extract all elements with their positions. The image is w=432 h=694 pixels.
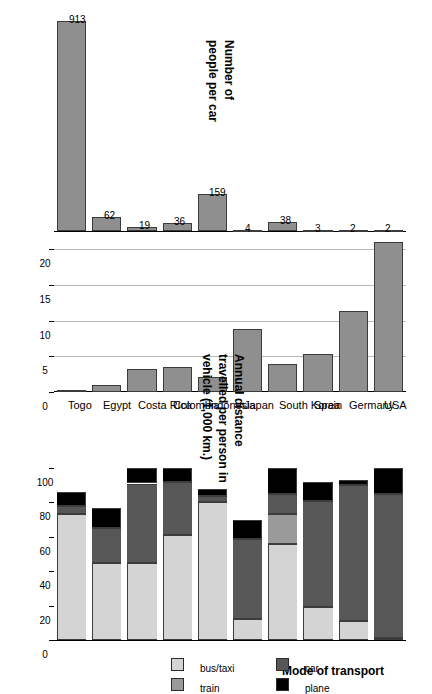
transport-tick-label: 80: [39, 512, 50, 522]
transport-stacked-bar: [303, 468, 332, 640]
transport-segment-plane: [92, 508, 121, 529]
transport-segment-bus-taxi: [233, 619, 262, 640]
distance-tick-label: 15: [39, 295, 50, 305]
country-label: South Korea: [279, 400, 340, 411]
distance-gridline: [54, 285, 406, 286]
transport-segment-train: [268, 514, 297, 543]
transport-stacked-bar: [198, 468, 227, 640]
distance-tick: [49, 392, 54, 393]
transport-segment-car: [303, 501, 332, 608]
transport-segment-plane: [339, 480, 368, 485]
transport-segment-car: [127, 484, 156, 563]
people-value-label: 38: [280, 216, 291, 226]
transport-tick: [49, 468, 54, 469]
distance-gridline: [54, 249, 406, 250]
transport-segment-car: [233, 539, 262, 620]
transport-segment-car: [339, 485, 368, 621]
transport-tick: [49, 571, 54, 572]
transport-stacked-bar: [163, 468, 192, 640]
legend-swatch-car: [276, 658, 289, 671]
people-value-label: 159: [209, 188, 226, 198]
distance-axis-title-line3: vehicle (1,000 km.): [200, 354, 214, 460]
transport-stacked-bar: [57, 468, 86, 640]
distance-tick: [49, 249, 54, 250]
transport-segment-car: [268, 494, 297, 515]
transport-segment-car: [198, 496, 227, 503]
legend-title: Mode of transport: [282, 664, 384, 678]
distance-bar: [57, 390, 86, 392]
legend-swatch-plane: [276, 678, 289, 691]
transport-segment-bus-taxi: [127, 563, 156, 640]
distance-bar: [92, 385, 121, 392]
transport-segment-bus-taxi: [57, 514, 86, 640]
transport-stacked-bar: [92, 468, 121, 640]
legend-label-car: car: [305, 664, 319, 674]
transport-tick-label: 60: [39, 547, 50, 557]
distance-tick-label: 10: [39, 331, 50, 341]
distance-bar: [268, 364, 297, 392]
transport-stacked-bar: [268, 468, 297, 640]
transport-tick-label: 0: [42, 650, 48, 660]
legend-label-plane: plane: [305, 684, 329, 694]
distance-tick-label: 0: [42, 402, 48, 412]
legend-swatch-bus-taxi: [171, 658, 184, 671]
transport-segment-car: [374, 494, 403, 638]
transport-tick-label: 100: [37, 478, 54, 488]
legend-label-train: train: [200, 684, 219, 694]
transport-segment-plane: [198, 489, 227, 496]
transport-segment-bus-taxi: [198, 502, 227, 640]
transport-segment-plane: [163, 468, 192, 482]
people-value-label: 913: [69, 15, 86, 25]
people-bar: [57, 21, 86, 231]
transport-segment-plane: [303, 482, 332, 501]
transport-segment-plane: [374, 468, 403, 494]
transport-tick: [49, 606, 54, 607]
distance-bar: [303, 354, 332, 392]
distance-tick: [49, 356, 54, 357]
transport-segment-plane: [268, 468, 297, 494]
transport-segment-car: [163, 482, 192, 535]
distance-bar: [374, 242, 403, 392]
distance-tick: [49, 321, 54, 322]
transport-tick-label: 40: [39, 581, 50, 591]
transport-stacked-bar: [339, 468, 368, 640]
country-label: Egypt: [103, 400, 131, 411]
transport-tick: [49, 537, 54, 538]
people-value-label: 19: [139, 221, 150, 231]
transport-stacked-bar: [127, 468, 156, 640]
panel-mode-of-transport: 020406080100 Mode of transport bus/taxit…: [0, 462, 432, 693]
transport-axis-line: [54, 640, 406, 641]
distance-tick-label: 20: [39, 259, 50, 269]
transport-segment-bus-taxi: [92, 563, 121, 640]
country-label: Costa Rica: [138, 400, 192, 411]
transport-stacked-bar: [374, 468, 403, 640]
transport-tick-label: 20: [39, 616, 50, 626]
country-label: Togo: [68, 400, 92, 411]
distance-bar: [127, 369, 156, 392]
legend-swatch-train: [171, 678, 184, 691]
people-axis-title-line1: Number of: [222, 40, 236, 100]
distance-bar: [163, 367, 192, 392]
transport-segment-bus-taxi: [268, 544, 297, 640]
transport-segment-bus-taxi: [163, 535, 192, 640]
transport-segment-plane: [127, 468, 156, 483]
distance-bar: [339, 311, 368, 392]
distance-axis-title-line1: Annual distance: [232, 354, 246, 447]
transport-segment-plane: [233, 520, 262, 539]
legend-label-bus-taxi: bus/taxi: [200, 664, 234, 674]
distance-tick-label: 5: [42, 366, 48, 376]
transport-segment-bus-taxi: [339, 621, 368, 640]
transport-stacked-bar: [233, 468, 262, 640]
transport-segment-car: [92, 528, 121, 562]
panel-people-per-car: 223384159361962913 Number of people per …: [0, 0, 432, 232]
transport-segment-bus-taxi: [303, 607, 332, 640]
people-axis-title-line2: people per car: [206, 40, 220, 122]
transport-tick: [49, 640, 54, 641]
people-value-label: 36: [174, 217, 185, 227]
transport-tick: [49, 502, 54, 503]
transport-segment-car: [57, 506, 86, 515]
people-bar: [198, 194, 227, 231]
panel-annual-distance: 05101520 USAGermanySpainSouth KoreaJapan…: [0, 232, 432, 462]
transport-segment-plane: [57, 492, 86, 506]
